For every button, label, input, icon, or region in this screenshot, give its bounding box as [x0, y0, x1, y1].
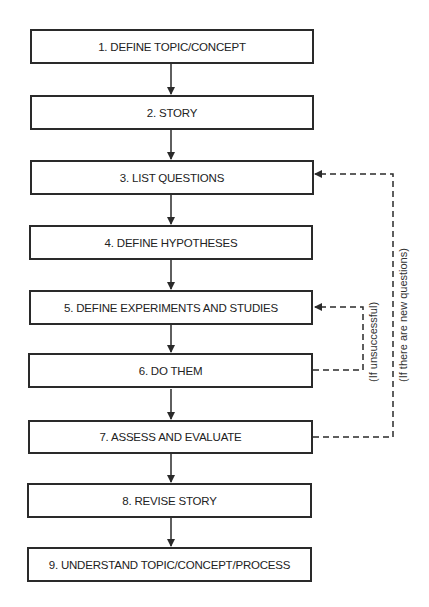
- step-5-box: 5. DEFINE EXPERIMENTS AND STUDIES: [29, 290, 313, 325]
- step-label: 8. REVISE STORY: [122, 495, 216, 507]
- step-2-box: 2. STORY: [30, 95, 314, 130]
- loop-label-unsuccessful: (If unsuccessful): [367, 302, 379, 382]
- step-label: 3. LIST QUESTIONS: [120, 172, 224, 184]
- step-label: 5. DEFINE EXPERIMENTS AND STUDIES: [64, 302, 278, 314]
- step-label: 6. DO THEM: [139, 365, 203, 377]
- step-7-box: 7. ASSESS AND EVALUATE: [28, 420, 313, 454]
- step-8-box: 8. REVISE STORY: [27, 483, 312, 518]
- loop-new-questions: [313, 174, 393, 437]
- step-6-box: 6. DO THEM: [28, 353, 313, 388]
- step-1-box: 1. DEFINE TOPIC/CONCEPT: [30, 29, 314, 64]
- step-label: 1. DEFINE TOPIC/CONCEPT: [98, 41, 246, 53]
- loop-unsuccessful: [313, 307, 363, 370]
- step-label: 2. STORY: [147, 107, 197, 119]
- step-label: 4. DEFINE HYPOTHESES: [105, 237, 238, 249]
- step-label: 7. ASSESS AND EVALUATE: [99, 431, 241, 443]
- step-9-box: 9. UNDERSTAND TOPIC/CONCEPT/PROCESS: [27, 547, 312, 582]
- step-label: 9. UNDERSTAND TOPIC/CONCEPT/PROCESS: [49, 559, 291, 571]
- step-4-box: 4. DEFINE HYPOTHESES: [29, 225, 313, 260]
- step-3-box: 3. LIST QUESTIONS: [30, 160, 314, 195]
- loop-label-new-questions: (If there are new questions): [397, 248, 409, 382]
